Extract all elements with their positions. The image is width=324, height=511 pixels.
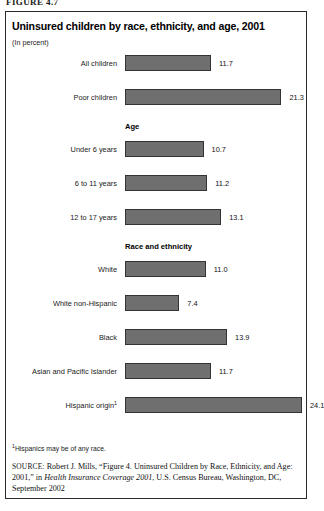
bar-track: 24.1	[125, 394, 302, 416]
bar-label: 12 to 17 years	[0, 213, 117, 222]
bar-row: White non-Hispanic7.4	[0, 292, 302, 314]
chart-subtitle: (In percent)	[12, 38, 49, 47]
group-heading-age: Age	[125, 122, 139, 131]
bar-label: White non-Hispanic	[0, 299, 117, 308]
bar-label-footnote-marker: 1	[114, 400, 117, 406]
bar-row: Poor children21.3	[0, 86, 302, 108]
bar-label: Poor children	[0, 93, 117, 102]
bar-label: Black	[0, 333, 117, 342]
figure-number: FIGURE 4.7	[6, 0, 59, 7]
bar	[125, 89, 281, 105]
group-heading-race-and-ethnicity: Race and ethnicity	[125, 242, 192, 251]
source-publication-title: Health Insurance Coverage 2001	[44, 473, 152, 482]
bar-track: 13.9	[125, 326, 302, 348]
bar	[125, 55, 211, 71]
bar-track: 13.1	[125, 206, 302, 228]
bar-row: 6 to 11 years11.2	[0, 172, 302, 194]
bar-value-label: 24.1	[310, 401, 324, 410]
bar-value-label: 13.1	[229, 213, 243, 222]
bar-label: Asian and Pacific Islander	[0, 367, 117, 376]
bar	[125, 261, 206, 277]
bar-value-label: 7.4	[187, 299, 197, 308]
bar-value-label: 21.3	[289, 93, 303, 102]
bar-row: Under 6 years10.7	[0, 138, 302, 160]
bar-label: White	[0, 265, 117, 274]
bar-row: All children11.7	[0, 52, 302, 74]
bar-value-label: 11.7	[219, 367, 233, 376]
bar-row: Black13.9	[0, 326, 302, 348]
bar-track: 10.7	[125, 138, 302, 160]
footnote: 1Hispanics may be of any race.	[12, 443, 106, 452]
figure-frame	[5, 11, 307, 499]
bar-track: 11.2	[125, 172, 302, 194]
footnote-text: Hispanics may be of any race.	[15, 445, 106, 452]
bar	[125, 329, 227, 345]
bar-row: Asian and Pacific Islander11.7	[0, 360, 302, 382]
bar-row: Hispanic origin124.1	[0, 394, 302, 416]
bar-row: White11.0	[0, 258, 302, 280]
bar-track: 7.4	[125, 292, 302, 314]
bar-label: 6 to 11 years	[0, 179, 117, 188]
bar-row: 12 to 17 years13.1	[0, 206, 302, 228]
bar-track: 11.0	[125, 258, 302, 280]
bar-value-label: 13.9	[235, 333, 249, 342]
bar-label: Under 6 years	[0, 145, 117, 154]
bar	[125, 175, 207, 191]
bar-track: 11.7	[125, 52, 302, 74]
source-label: SOURCE:	[12, 462, 45, 471]
bar-value-label: 11.7	[219, 59, 233, 68]
bar	[125, 141, 204, 157]
bar	[125, 209, 221, 225]
bar	[125, 397, 302, 413]
bar	[125, 363, 211, 379]
bar-label: All children	[0, 59, 117, 68]
source-citation: SOURCE: Robert J. Mills, “Figure 4. Unin…	[12, 461, 296, 495]
bar-value-label: 10.7	[212, 145, 226, 154]
bar	[125, 295, 179, 311]
chart-title: Uninsured children by race, ethnicity, a…	[12, 20, 265, 32]
bar-value-label: 11.0	[214, 265, 228, 274]
bar-track: 21.3	[125, 86, 302, 108]
bar-value-label: 11.2	[215, 179, 229, 188]
bar-label: Hispanic origin1	[0, 400, 117, 410]
bar-track: 11.7	[125, 360, 302, 382]
